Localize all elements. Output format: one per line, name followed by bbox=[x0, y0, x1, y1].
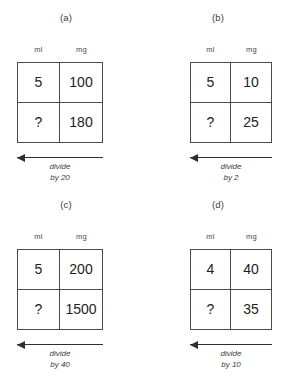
column-header-mg: mg bbox=[231, 232, 272, 241]
panel-c-caption: (c) bbox=[0, 199, 132, 210]
cell-mg-row1: 100 bbox=[60, 63, 102, 103]
cell-ml-row1: 5 bbox=[191, 63, 231, 103]
arrow-left-icon bbox=[190, 154, 198, 162]
cell-ml-row2: ? bbox=[18, 290, 60, 330]
arrow-left-icon bbox=[17, 154, 25, 162]
cell-mg-row2: 180 bbox=[60, 103, 102, 143]
cell-ml-row1: 4 bbox=[191, 250, 231, 290]
panel-a-table: 5 100 ? 180 bbox=[17, 62, 103, 143]
column-header-ml: ml bbox=[17, 232, 60, 241]
panel-d-arrow-label: divide by 10 bbox=[190, 349, 272, 370]
cell-ml-row1: 5 bbox=[18, 250, 60, 290]
column-header-ml: ml bbox=[17, 45, 60, 54]
panel-d-column-headers: ml mg bbox=[190, 232, 272, 241]
panel-b-table: 5 10 ? 25 bbox=[190, 62, 272, 143]
panel-a-arrow-label: divide by 20 bbox=[17, 162, 103, 183]
arrow-label-line2: by 20 bbox=[17, 173, 103, 184]
cell-ml-row1: 5 bbox=[18, 63, 60, 103]
panel-b-arrow-label: divide by 2 bbox=[190, 162, 272, 183]
cell-ml-row2: ? bbox=[191, 103, 231, 143]
cell-ml-row2: ? bbox=[191, 290, 231, 330]
cell-mg-row2: 1500 bbox=[60, 290, 102, 330]
arrow-label-line1: divide bbox=[17, 349, 103, 360]
column-header-mg: mg bbox=[231, 45, 272, 54]
column-header-ml: ml bbox=[190, 45, 231, 54]
panel-c-arrow-label: divide by 40 bbox=[17, 349, 103, 370]
arrow-label-line2: by 2 bbox=[190, 173, 272, 184]
column-header-ml: ml bbox=[190, 232, 231, 241]
panel-a-caption: (a) bbox=[0, 12, 132, 23]
cell-ml-row2: ? bbox=[18, 103, 60, 143]
panel-d-caption: (d) bbox=[152, 199, 284, 210]
arrow-label-line1: divide bbox=[190, 162, 272, 173]
column-header-mg: mg bbox=[60, 45, 103, 54]
worksheet-figure: (a) ml mg 5 100 ? 180 divide by 20 (b) m… bbox=[0, 0, 286, 377]
arrow-line bbox=[17, 344, 103, 345]
arrow-label-line2: by 40 bbox=[17, 360, 103, 371]
arrow-line bbox=[190, 157, 272, 158]
arrow-label-line1: divide bbox=[17, 162, 103, 173]
arrow-left-icon bbox=[17, 341, 25, 349]
arrow-label-line1: divide bbox=[190, 349, 272, 360]
column-header-mg: mg bbox=[60, 232, 103, 241]
cell-mg-row2: 35 bbox=[231, 290, 271, 330]
panel-c-table: 5 200 ? 1500 bbox=[17, 249, 103, 330]
arrow-line bbox=[190, 344, 272, 345]
cell-mg-row1: 40 bbox=[231, 250, 271, 290]
panel-a: (a) ml mg 5 100 ? 180 divide by 20 bbox=[0, 12, 132, 23]
cell-mg-row1: 200 bbox=[60, 250, 102, 290]
panel-c: (c) ml mg 5 200 ? 1500 divide by 40 bbox=[0, 199, 132, 210]
arrow-label-line2: by 10 bbox=[190, 360, 272, 371]
panel-d-table: 4 40 ? 35 bbox=[190, 249, 272, 330]
panel-b-column-headers: ml mg bbox=[190, 45, 272, 54]
panel-d: (d) ml mg 4 40 ? 35 divide by 10 bbox=[152, 199, 284, 210]
panel-b: (b) ml mg 5 10 ? 25 divide by 2 bbox=[152, 12, 284, 23]
panel-b-caption: (b) bbox=[152, 12, 284, 23]
cell-mg-row1: 10 bbox=[231, 63, 271, 103]
panel-a-column-headers: ml mg bbox=[17, 45, 103, 54]
arrow-left-icon bbox=[190, 341, 198, 349]
cell-mg-row2: 25 bbox=[231, 103, 271, 143]
arrow-line bbox=[17, 157, 103, 158]
panel-c-column-headers: ml mg bbox=[17, 232, 103, 241]
